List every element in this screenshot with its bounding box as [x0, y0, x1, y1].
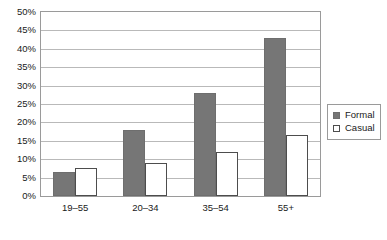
axis-baseline — [41, 196, 320, 197]
y-axis: 0%5%10%15%20%25%30%35%40%45%50% — [0, 0, 36, 240]
x-axis: 19–5520–3435–5455+ — [40, 202, 321, 218]
y-tick-label: 30% — [0, 81, 36, 91]
y-tick-label: 35% — [0, 62, 36, 72]
bar-formal-3 — [264, 38, 286, 196]
y-tick-label: 0% — [0, 191, 36, 201]
filled-square-icon — [333, 112, 340, 119]
plot-area — [40, 11, 321, 197]
y-tick-label: 5% — [0, 173, 36, 183]
chart-legend: FormalCasual — [327, 104, 381, 140]
legend-label: Casual — [345, 123, 375, 133]
outlined-square-icon — [333, 125, 340, 132]
gridline — [41, 30, 320, 31]
y-tick-label: 10% — [0, 154, 36, 164]
legend-item-formal[interactable]: Formal — [333, 109, 375, 121]
y-tick-label: 40% — [0, 44, 36, 54]
bar-casual-1 — [145, 163, 167, 196]
y-tick-label: 20% — [0, 117, 36, 127]
bar-formal-2 — [194, 93, 216, 196]
x-tick-label: 55+ — [251, 202, 321, 214]
y-tick-label: 45% — [0, 25, 36, 35]
bar-casual-3 — [286, 135, 308, 196]
x-tick-label: 19–55 — [40, 202, 110, 214]
bar-casual-2 — [216, 152, 238, 196]
bar-formal-0 — [53, 172, 75, 196]
x-tick-label: 20–34 — [110, 202, 180, 214]
bar-formal-1 — [123, 130, 145, 196]
bar-casual-0 — [75, 168, 97, 196]
x-tick-label: 35–54 — [181, 202, 251, 214]
y-tick-label: 50% — [0, 7, 36, 17]
legend-item-casual[interactable]: Casual — [333, 122, 375, 134]
y-tick-label: 25% — [0, 99, 36, 109]
bar-chart: 0%5%10%15%20%25%30%35%40%45%50% 19–5520–… — [0, 0, 387, 240]
legend-label: Formal — [345, 110, 375, 120]
y-tick-label: 15% — [0, 136, 36, 146]
